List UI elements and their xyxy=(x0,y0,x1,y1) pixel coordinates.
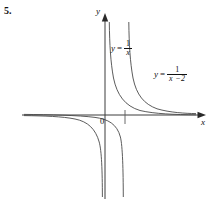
figure-container: 5. y x 0 y = 1 x y xyxy=(0,0,213,199)
curve-label-one-over-x: y = 1 x xyxy=(111,40,132,57)
curve-one-over-x-minus-2-branch-q3 xyxy=(24,114,123,197)
curve-one-over-x-branch-q3 xyxy=(24,116,102,197)
curve-label-fraction: 1 x −2 xyxy=(167,66,187,83)
x-axis-label: x xyxy=(200,117,205,127)
fraction-denominator: x xyxy=(124,49,132,57)
curve-label-equals: = xyxy=(160,70,165,79)
origin-label: 0 xyxy=(100,116,104,126)
y-axis-arrowhead xyxy=(102,13,108,22)
coordinate-plot: y x 0 xyxy=(0,0,213,199)
fraction-denominator: x −2 xyxy=(167,75,187,83)
curve-label-lhs: y xyxy=(154,70,158,79)
curve-label-equals: = xyxy=(117,44,122,53)
curve-label-lhs: y xyxy=(111,44,115,53)
y-axis-label: y xyxy=(95,6,100,16)
curve-label-one-over-x-minus-2: y = 1 x −2 xyxy=(154,66,187,83)
fraction-numerator: 1 xyxy=(173,66,181,74)
fraction-numerator: 1 xyxy=(124,40,132,48)
curve-label-fraction: 1 x xyxy=(124,40,132,57)
